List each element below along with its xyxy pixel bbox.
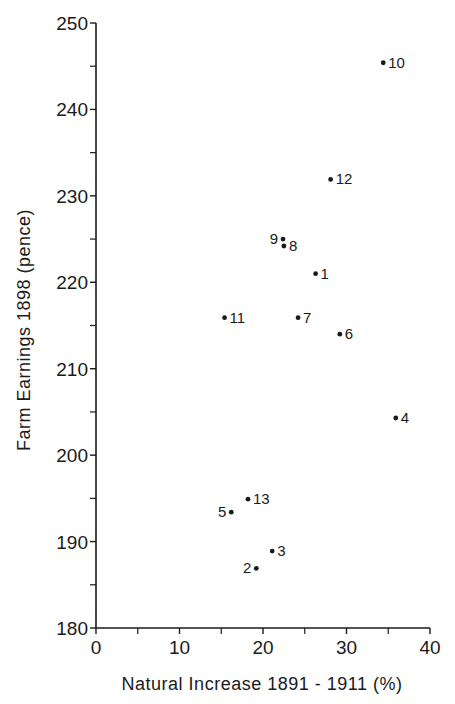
y-tick-label: 240 xyxy=(56,99,88,120)
data-point-marker xyxy=(328,177,333,182)
data-point-label: 13 xyxy=(253,490,270,507)
data-point-marker xyxy=(229,510,234,515)
data-point-label: 5 xyxy=(218,503,226,520)
data-point-label: 6 xyxy=(345,325,353,342)
data-point-label: 1 xyxy=(321,265,329,282)
data-point-label: 8 xyxy=(289,237,297,254)
y-tick-label: 250 xyxy=(56,13,88,34)
y-tick-label: 220 xyxy=(56,272,88,293)
x-tick-label: 0 xyxy=(91,637,102,658)
data-point-label: 4 xyxy=(401,409,409,426)
data-point-marker xyxy=(222,315,227,320)
data-point-label: 7 xyxy=(303,309,311,326)
data-point-marker xyxy=(270,549,275,554)
x-tick-label: 10 xyxy=(169,637,190,658)
y-tick-label: 200 xyxy=(56,445,88,466)
y-tick-label: 190 xyxy=(56,532,88,553)
data-point-marker xyxy=(313,271,318,276)
data-point-label: 10 xyxy=(388,54,405,71)
data-point-label: 2 xyxy=(243,559,251,576)
data-points: 12345678910111213 xyxy=(218,54,409,577)
scatter-plot: 180190200210220230240250010203040 123456… xyxy=(0,0,455,704)
data-point-marker xyxy=(393,416,398,421)
data-point-marker xyxy=(281,237,286,242)
data-point-marker xyxy=(381,60,386,65)
data-point-marker xyxy=(337,332,342,337)
data-point-label: 3 xyxy=(277,542,285,559)
x-tick-label: 30 xyxy=(336,637,357,658)
x-tick-label: 20 xyxy=(252,637,273,658)
data-point-marker xyxy=(246,497,251,502)
data-point-marker xyxy=(254,566,259,571)
x-axis-title: Natural Increase 1891 - 1911 (%) xyxy=(122,674,403,694)
y-axis-title: Farm Earnings 1898 (pence) xyxy=(14,209,34,451)
x-tick-label: 40 xyxy=(419,637,440,658)
data-point-label: 12 xyxy=(336,170,353,187)
y-tick-label: 180 xyxy=(56,618,88,639)
y-tick-label: 230 xyxy=(56,186,88,207)
data-point-marker xyxy=(296,315,301,320)
data-point-marker xyxy=(281,244,286,249)
data-point-label: 11 xyxy=(230,309,246,326)
y-tick-label: 210 xyxy=(56,359,88,380)
data-point-label: 9 xyxy=(270,230,278,247)
